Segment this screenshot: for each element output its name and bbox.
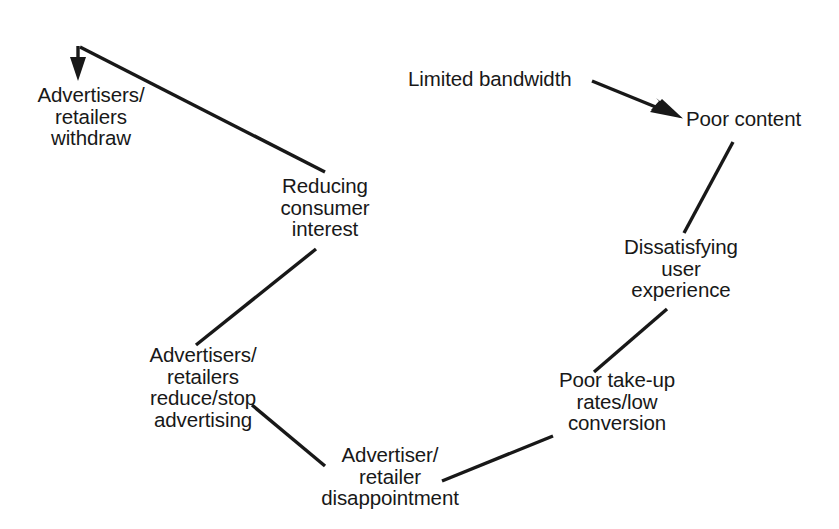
node-advertisers-retailers-withdraw: Advertisers/ retailers withdraw [16,84,166,149]
node-limited-bandwidth: Limited bandwidth [408,68,588,90]
edge-dissatisfying-ux-to-poor-take-up [594,309,667,372]
node-poor-take-up-rates: Poor take-up rates/low conversion [548,369,686,434]
node-poor-content: Poor content [686,108,826,130]
node-advertisers-retailers-reduce-stop-advertising: Advertisers/ retailers reduce/stop adver… [130,344,276,430]
node-dissatisfying-user-experience: Dissatisfying user experience [612,236,750,301]
edge-reduce-stop-advertising-to-reducing-consumer-interest [196,249,316,345]
node-advertiser-retailer-disappointment: Advertiser/ retailer disappointment [300,444,480,509]
node-reducing-consumer-interest: Reducing consumer interest [262,175,388,240]
edge-poor-content-to-dissatisfying-ux [684,142,733,233]
edge-limited-bandwidth-to-poor-content [592,81,683,119]
causal-loop-diagram: Limited bandwidth Poor content Dissatisf… [0,0,839,529]
